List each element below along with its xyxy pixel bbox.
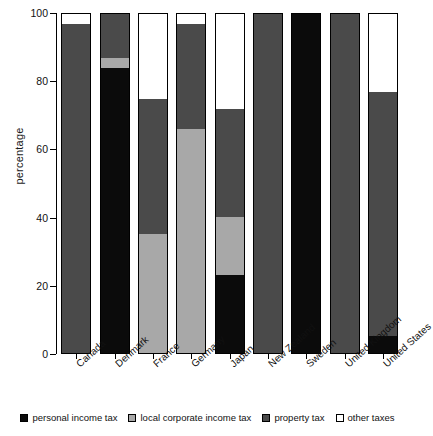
y-tick-mark: [50, 218, 56, 219]
bar-united-states[interactable]: [368, 13, 398, 354]
bar-france[interactable]: [138, 13, 168, 354]
y-tick-label: 20: [36, 281, 48, 292]
segment-personal: [292, 14, 320, 353]
segment-personal: [101, 68, 129, 353]
segment-other: [177, 14, 205, 24]
bar-united-kingdom[interactable]: [330, 13, 360, 354]
legend-item-0[interactable]: personal income tax: [20, 412, 117, 423]
legend-item-1[interactable]: local corporate income tax: [128, 412, 251, 423]
bar-canada[interactable]: [61, 13, 91, 354]
y-tick-mark: [50, 286, 56, 287]
segment-corporate: [177, 129, 205, 353]
legend-swatch-icon: [128, 414, 136, 422]
segment-property: [101, 14, 129, 58]
y-tick-mark: [50, 13, 56, 14]
y-tick-mark: [50, 81, 56, 82]
y-tick-label: 80: [36, 76, 48, 87]
legend-label: personal income tax: [32, 412, 117, 423]
bar-japan[interactable]: [215, 13, 245, 354]
bar-sweden[interactable]: [291, 13, 321, 354]
segment-property: [331, 14, 359, 353]
y-axis-line: [56, 13, 57, 354]
y-tick-label: 40: [36, 212, 48, 223]
y-tick-mark: [50, 354, 56, 355]
y-tick-mark: [50, 149, 56, 150]
legend-item-2[interactable]: property tax: [262, 412, 324, 423]
y-tick-label: 60: [36, 144, 48, 155]
segment-property: [62, 24, 90, 353]
segment-corporate: [101, 58, 129, 68]
y-tick-label: 100: [30, 8, 48, 19]
legend-label: other taxes: [348, 412, 395, 423]
segment-property: [216, 109, 244, 217]
legend-item-3[interactable]: other taxes: [336, 412, 395, 423]
y-axis-title: percentage: [13, 111, 25, 201]
chart-legend: personal income taxlocal corporate incom…: [0, 412, 415, 423]
segment-property: [139, 99, 167, 235]
plot-area: 020406080100: [57, 13, 402, 354]
legend-label: local corporate income tax: [140, 412, 251, 423]
bar-new-zealand[interactable]: [253, 13, 283, 354]
segment-property: [177, 24, 205, 129]
legend-swatch-icon: [336, 414, 344, 422]
segment-other: [139, 14, 167, 99]
segment-property: [254, 14, 282, 353]
segment-other: [62, 14, 90, 24]
bar-denmark[interactable]: [100, 13, 130, 354]
segment-other: [216, 14, 244, 109]
segment-corporate: [216, 217, 244, 275]
segment-property: [369, 92, 397, 336]
segment-other: [369, 14, 397, 92]
legend-swatch-icon: [262, 414, 270, 422]
y-tick-label: 0: [42, 349, 48, 360]
legend-swatch-icon: [20, 414, 28, 422]
bar-germany[interactable]: [176, 13, 206, 354]
legend-label: property tax: [274, 412, 324, 423]
